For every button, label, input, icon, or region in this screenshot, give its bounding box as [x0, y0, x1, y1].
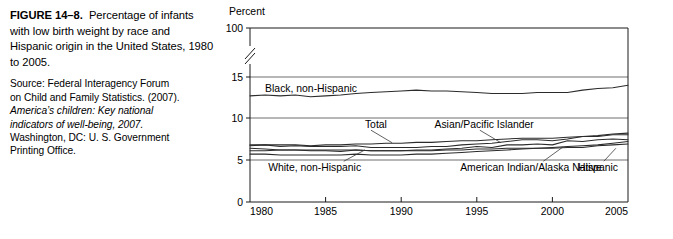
- figure-number: FIGURE 14–8.: [10, 9, 89, 21]
- x-tick-label: 1985: [314, 206, 337, 217]
- caption-title: FIGURE 14–8.Percentage of infants with l…: [10, 8, 215, 70]
- y-tick-label: 15: [231, 72, 243, 83]
- source-line-4: Printing Office.: [10, 145, 76, 156]
- x-tick-label: 2005: [605, 206, 628, 217]
- series-label: Black, non-Hispanic: [265, 83, 357, 94]
- y-tick-label: 0: [237, 197, 243, 208]
- source-italic-2: indicators of well-being, 2007.: [10, 119, 143, 130]
- label-leader-line: [480, 130, 501, 143]
- source-line-3: Washington, DC: U. S. Government: [10, 132, 169, 143]
- plot-frame: [250, 28, 628, 202]
- series-label: Asian/Pacific Islander: [434, 119, 534, 130]
- x-tick-label: 1980: [250, 206, 273, 217]
- x-tick-label: 1995: [465, 206, 488, 217]
- source-line-1: Source: Federal Interagency Forum: [10, 78, 169, 89]
- label-leader-line: [371, 130, 392, 143]
- y-tick-label: 10: [231, 113, 243, 124]
- x-tick-label: 1990: [390, 206, 413, 217]
- data-line: [250, 133, 628, 146]
- x-tick-label: 2000: [541, 206, 564, 217]
- source-line-2: on Child and Family Statistics. (2007).: [10, 92, 180, 103]
- label-leader-line: [604, 148, 616, 161]
- line-chart-svg: 051015100 198019851990199520002005 Black…: [225, 0, 673, 239]
- figure-caption: FIGURE 14–8.Percentage of infants with l…: [10, 8, 215, 158]
- label-leader-line: [344, 150, 365, 161]
- plot-frame-group: [250, 28, 628, 202]
- y-tick-label: 5: [237, 155, 243, 166]
- series-label: Hispanic: [578, 162, 618, 173]
- y-axis-break-icon: [245, 46, 255, 64]
- source-italic-1: America’s children: Key national: [10, 105, 153, 116]
- series-label: Total: [365, 119, 387, 130]
- label-leader-line: [543, 147, 563, 161]
- caption-source: Source: Federal Interagency Forum on Chi…: [10, 77, 215, 157]
- chart-region: Percent 051015100 1980198519901995200020…: [225, 0, 673, 239]
- series-label: White, non-Hispanic: [268, 162, 361, 173]
- figure-container: FIGURE 14–8.Percentage of infants with l…: [0, 0, 673, 239]
- y-tick-label: 100: [226, 23, 244, 34]
- data-line: [250, 142, 628, 155]
- x-axis-ticks-group: 198019851990199520002005: [250, 197, 628, 217]
